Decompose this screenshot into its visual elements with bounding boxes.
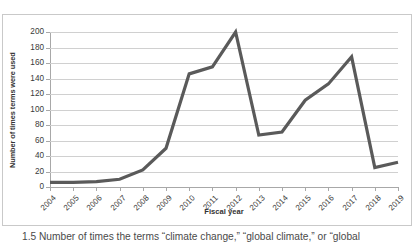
y-tick-label-40: 40 [14,152,44,160]
y-tick-label-0: 0 [14,183,44,191]
y-tick-label-160: 160 [14,59,44,67]
x-tick-mark-2015 [305,187,306,191]
x-tick-mark-2013 [259,187,260,191]
figure-caption: 1.5 Number of times the terms “climate c… [22,231,418,243]
y-tick-label-80: 80 [14,121,44,129]
gridline-0 [50,187,398,188]
y-tick-label-100: 100 [14,106,44,114]
x-tick-mark-2007 [120,187,121,191]
x-tick-mark-2004 [50,187,51,191]
y-tick-label-60: 60 [14,137,44,145]
x-tick-mark-2006 [96,187,97,191]
x-tick-mark-2019 [398,187,399,191]
x-tick-mark-2010 [189,187,190,191]
x-tick-mark-2009 [166,187,167,191]
x-tick-mark-2011 [212,187,213,191]
x-axis-title: Fiscal year [50,207,398,216]
plot-area: 020406080100120140160180200 200420052006… [50,32,398,187]
figure-container: Number of times terms were used 02040608… [0,0,418,245]
series-line [50,32,398,187]
x-tick-mark-2017 [352,187,353,191]
y-tick-label-180: 180 [14,44,44,52]
x-tick-mark-2018 [375,187,376,191]
y-tick-label-200: 200 [14,28,44,36]
y-tick-label-120: 120 [14,90,44,98]
x-tick-mark-2012 [236,187,237,191]
x-tick-mark-2005 [73,187,74,191]
x-tick-mark-2014 [282,187,283,191]
y-tick-label-140: 140 [14,75,44,83]
y-tick-label-20: 20 [14,168,44,176]
x-tick-mark-2008 [143,187,144,191]
x-tick-mark-2016 [328,187,329,191]
